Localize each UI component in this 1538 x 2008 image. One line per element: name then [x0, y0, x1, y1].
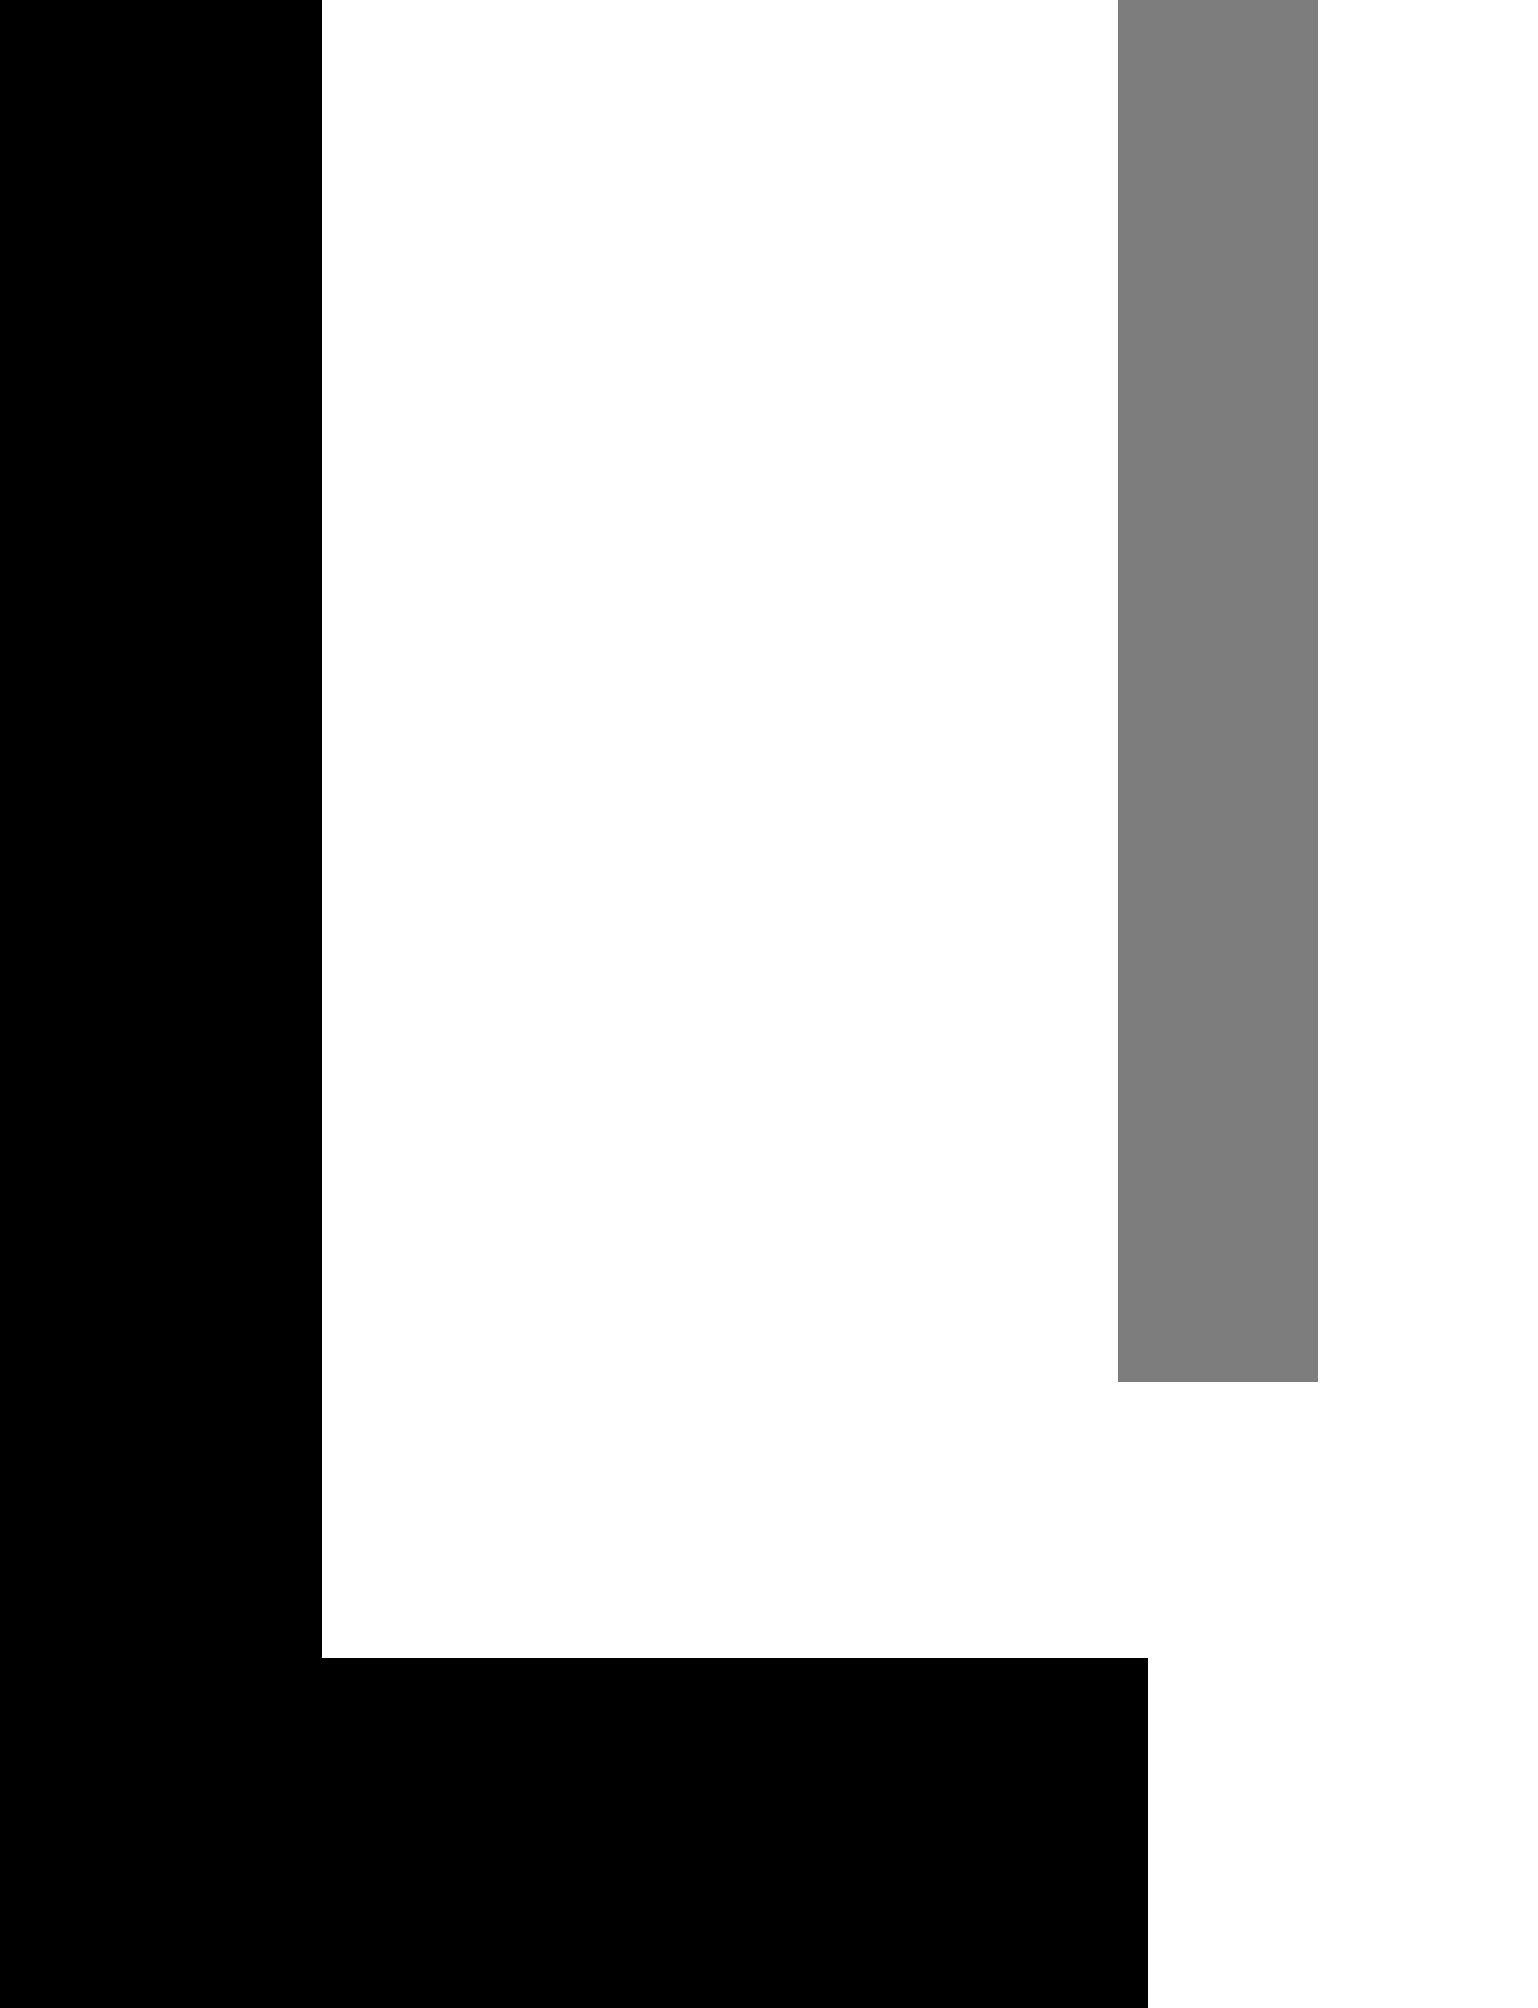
screenshot-canvas: [0, 0, 1538, 2008]
gray-placeholder-block: [1118, 0, 1318, 1382]
bottom-right-margin-white: [1148, 1658, 1538, 2008]
bottom-chrome-label: [321, 1657, 322, 1658]
left-chrome-column: [0, 0, 322, 2008]
bottom-chrome-band: [322, 1658, 1148, 2008]
page-content-area: [322, 0, 1118, 1658]
